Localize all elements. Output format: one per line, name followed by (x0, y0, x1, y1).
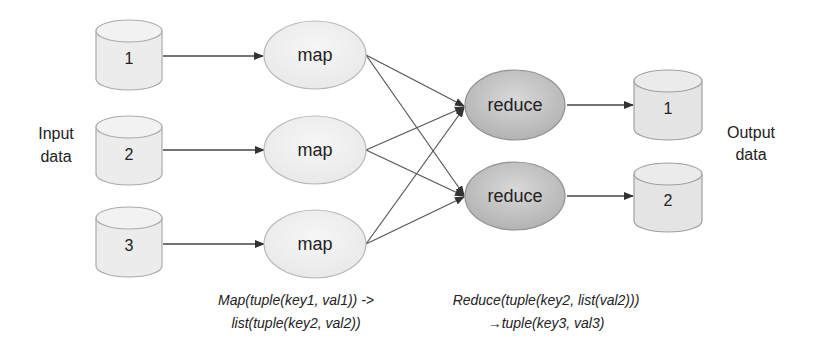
mapreduce-diagram: 1 2 3 map map map reduce reduce 1 (0, 0, 815, 358)
reduce-caption-line1: Reduce(tuple(key2, list(val2))) (453, 292, 640, 308)
map-node-1: map (264, 21, 366, 89)
input-cylinder-3: 3 (96, 207, 162, 277)
output-data-label-line2: data (735, 146, 766, 163)
edge-map1-red1 (366, 55, 464, 106)
output-cylinder-2: 2 (634, 163, 702, 232)
input-cylinder-2-label: 2 (125, 146, 134, 163)
reduce-node-1-label: reduce (487, 95, 542, 115)
input-cylinder-2: 2 (96, 116, 162, 185)
output-data-label: Output data (727, 124, 776, 163)
map-function-caption: Map(tuple(key1, val1)) -> list(tuple(key… (218, 292, 374, 331)
input-cylinder-1-label: 1 (125, 50, 134, 67)
output-data-label-line1: Output (727, 124, 776, 141)
input-cylinder-1: 1 (96, 20, 162, 90)
reduce-node-2-label: reduce (487, 186, 542, 206)
edges-reduce-to-output (567, 105, 633, 196)
map-node-3: map (264, 210, 366, 278)
map-node-2: map (264, 116, 366, 184)
output-cylinder-2-label: 2 (664, 192, 673, 209)
input-data-label-line2: data (40, 148, 71, 165)
edge-map3-red2 (366, 197, 464, 244)
map-caption-line1: Map(tuple(key1, val1)) -> (218, 292, 374, 308)
reduce-node-1: reduce (465, 70, 565, 140)
input-data-label: Input data (38, 125, 74, 165)
reduce-function-caption: Reduce(tuple(key2, list(val2))) →tuple(k… (453, 292, 640, 331)
input-cylinder-3-label: 3 (125, 237, 134, 254)
map-caption-line2: list(tuple(key2, val2)) (231, 315, 360, 331)
output-cylinder-1: 1 (634, 70, 702, 140)
edges-input-to-map (163, 56, 264, 244)
edges-map-to-reduce (366, 55, 464, 244)
map-node-1-label: map (297, 45, 332, 65)
input-data-label-line1: Input (38, 125, 74, 142)
reduce-node-2: reduce (465, 162, 565, 230)
reduce-caption-line2: →tuple(key3, val3) (488, 315, 605, 331)
map-node-2-label: map (297, 140, 332, 160)
edge-map1-red2 (366, 55, 464, 195)
map-node-3-label: map (297, 234, 332, 254)
output-cylinder-1-label: 1 (664, 100, 673, 117)
